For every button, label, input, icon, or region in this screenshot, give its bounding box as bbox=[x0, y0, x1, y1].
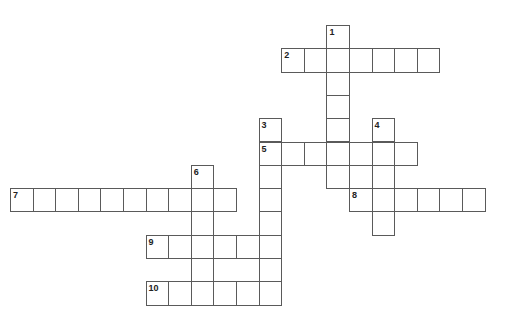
crossword-cell[interactable] bbox=[259, 165, 283, 189]
crossword-cell[interactable] bbox=[417, 188, 441, 212]
crossword-cell[interactable] bbox=[55, 188, 79, 212]
crossword-cell[interactable] bbox=[439, 188, 463, 212]
crossword-cell[interactable] bbox=[213, 235, 237, 259]
crossword-cell[interactable] bbox=[259, 211, 283, 235]
crossword-cell[interactable] bbox=[168, 188, 192, 212]
crossword-cell[interactable] bbox=[394, 188, 418, 212]
crossword-cell[interactable] bbox=[213, 281, 237, 305]
crossword-cell[interactable] bbox=[326, 72, 350, 96]
crossword-cell[interactable] bbox=[349, 48, 373, 72]
clue-number: 10 bbox=[149, 284, 159, 293]
crossword-cell[interactable] bbox=[326, 48, 350, 72]
crossword-cell[interactable] bbox=[326, 95, 350, 119]
crossword-cell[interactable] bbox=[372, 142, 396, 166]
crossword-cell[interactable] bbox=[168, 281, 192, 305]
crossword-cell[interactable] bbox=[281, 142, 305, 166]
crossword-cell[interactable] bbox=[372, 165, 396, 189]
crossword-cell[interactable] bbox=[191, 211, 215, 235]
crossword-cell[interactable] bbox=[33, 188, 57, 212]
crossword-cell[interactable] bbox=[78, 188, 102, 212]
clue-number: 6 bbox=[194, 168, 199, 177]
crossword-cell[interactable]: 8 bbox=[349, 188, 373, 212]
crossword-cell[interactable] bbox=[372, 188, 396, 212]
crossword-cell[interactable] bbox=[213, 188, 237, 212]
clue-number: 3 bbox=[262, 121, 267, 130]
crossword-cell[interactable] bbox=[372, 48, 396, 72]
clue-number: 1 bbox=[329, 28, 334, 37]
crossword-cell[interactable] bbox=[349, 142, 373, 166]
crossword-cell[interactable] bbox=[304, 142, 328, 166]
crossword-cell[interactable]: 9 bbox=[146, 235, 170, 259]
clue-number: 4 bbox=[375, 121, 380, 130]
crossword-cell[interactable] bbox=[191, 258, 215, 282]
clue-number: 9 bbox=[149, 238, 154, 247]
crossword-cell[interactable] bbox=[236, 235, 260, 259]
crossword-cell[interactable] bbox=[372, 211, 396, 235]
crossword-cell[interactable] bbox=[304, 48, 328, 72]
crossword-cell[interactable]: 3 bbox=[259, 118, 283, 142]
crossword-cell[interactable]: 10 bbox=[146, 281, 170, 305]
crossword-cell[interactable] bbox=[146, 188, 170, 212]
crossword-cell[interactable] bbox=[326, 165, 350, 189]
crossword-cell[interactable] bbox=[326, 142, 350, 166]
clue-number: 8 bbox=[352, 191, 357, 200]
crossword-cell[interactable] bbox=[100, 188, 124, 212]
crossword-cell[interactable]: 7 bbox=[10, 188, 34, 212]
crossword-cell[interactable] bbox=[259, 235, 283, 259]
crossword-cell[interactable]: 5 bbox=[259, 142, 283, 166]
crossword-grid: 12354678910 bbox=[0, 0, 510, 324]
clue-number: 2 bbox=[284, 51, 289, 60]
crossword-cell[interactable]: 2 bbox=[281, 48, 305, 72]
crossword-cell[interactable] bbox=[259, 281, 283, 305]
crossword-cell[interactable] bbox=[394, 48, 418, 72]
crossword-cell[interactable] bbox=[259, 188, 283, 212]
crossword-cell[interactable] bbox=[168, 235, 192, 259]
clue-number: 5 bbox=[262, 145, 267, 154]
crossword-cell[interactable] bbox=[417, 48, 441, 72]
crossword-cell[interactable] bbox=[191, 235, 215, 259]
crossword-cell[interactable]: 1 bbox=[326, 25, 350, 49]
crossword-cell[interactable]: 6 bbox=[191, 165, 215, 189]
crossword-cell[interactable] bbox=[236, 281, 260, 305]
crossword-cell[interactable] bbox=[394, 142, 418, 166]
crossword-cell[interactable]: 4 bbox=[372, 118, 396, 142]
crossword-cell[interactable] bbox=[462, 188, 486, 212]
crossword-cell[interactable] bbox=[326, 118, 350, 142]
crossword-cell[interactable] bbox=[123, 188, 147, 212]
crossword-cell[interactable] bbox=[259, 258, 283, 282]
crossword-cell[interactable] bbox=[191, 281, 215, 305]
clue-number: 7 bbox=[13, 191, 18, 200]
crossword-cell[interactable] bbox=[191, 188, 215, 212]
